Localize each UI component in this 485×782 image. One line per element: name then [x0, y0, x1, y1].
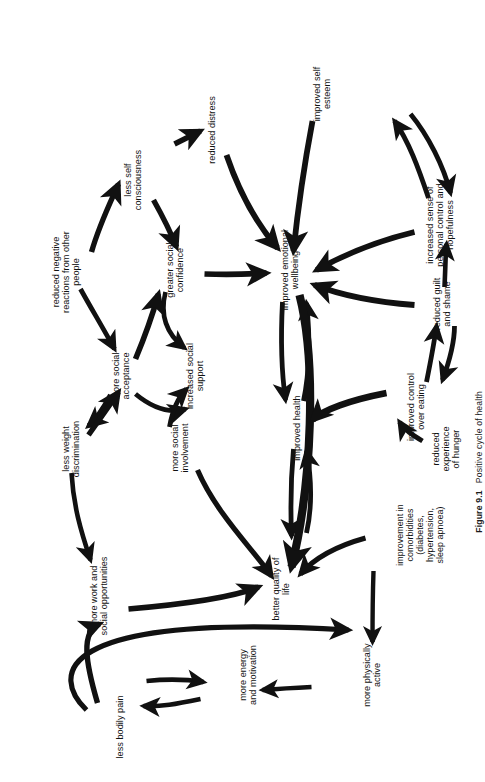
edge-active-to-energy: [262, 687, 311, 690]
edge-eating-to-health: [312, 393, 386, 420]
edge-pain-to-energy: [146, 680, 203, 682]
node-more-social-acceptance[interactable]: more social acceptance: [111, 352, 131, 399]
edge-health-to-qol: [290, 449, 293, 536]
edge-distress-to-wellbeing: [226, 155, 277, 248]
node-more-work-and-social-opportunities[interactable]: more work and social opportunities: [89, 557, 109, 636]
node-improvement-in-comorbidities[interactable]: improvement in comorbidities (diabetes, …: [395, 504, 445, 565]
node-more-energy-and-motivation[interactable]: more energy and motivation: [238, 645, 258, 705]
figure-caption-text: Positive cycle of health: [474, 391, 484, 483]
node-less-bodily-pain[interactable]: less bodily pain: [115, 696, 125, 759]
node-reduced-distress[interactable]: reduced distress: [207, 96, 217, 164]
node-less-weight-discrimination[interactable]: less weight discrimination: [61, 421, 81, 477]
edge-esteem-to-control: [410, 114, 450, 193]
edge-reactions-to-selfcons: [91, 184, 118, 252]
edge-acceptance-to-confidence: [135, 294, 158, 359]
edge-reactions-to-acceptance: [80, 289, 114, 349]
edge-guilt-to-eating: [442, 326, 454, 380]
node-improved-health[interactable]: improved health: [292, 395, 302, 460]
node-reduced-negative-reactions[interactable]: reduced negative reactions from other pe…: [51, 231, 82, 313]
edge-work-to-qol: [128, 587, 258, 609]
node-improved-self-esteem[interactable]: improved self esteem: [312, 67, 332, 122]
edge-comorb-to-active: [372, 571, 373, 642]
node-reduced-experience-of-hunger[interactable]: reduced experience of hunger: [431, 427, 462, 472]
figure-caption: Figure 9.1Positive cycle of health: [474, 391, 484, 533]
edge-involvement-to-qol: [197, 470, 271, 576]
edge-pain-to-active: [70, 627, 348, 710]
node-improved-emotional-wellbeing[interactable]: improved emotional wellbeing: [280, 230, 300, 310]
edge-eating-to-guilt: [426, 326, 436, 382]
node-increased-sense-personal-control[interactable]: increased sense of personal control and …: [425, 183, 456, 266]
edge-discrimination-to-work: [71, 473, 90, 560]
edge-energy-to-pain: [143, 699, 200, 706]
node-better-quality-of-life[interactable]: better quality of life: [271, 557, 291, 620]
edge-selfcons-to-distress: [174, 131, 200, 144]
node-greater-social-confidence[interactable]: greater social confidence: [165, 242, 185, 297]
diagram-canvas: more physically active more energy and m…: [0, 0, 485, 782]
edge-pain-to-work: [86, 624, 99, 703]
edge-confidence-to-support: [163, 292, 184, 348]
node-less-self-consciousness[interactable]: less self consciousness: [123, 150, 143, 210]
edge-selfcons-to-confidence: [153, 200, 176, 247]
node-more-social-involvement[interactable]: more social involvement: [170, 423, 190, 472]
node-reduced-guilt-and-shame[interactable]: reduced guilt and shame: [432, 278, 452, 331]
figure-caption-number: Figure 9.1: [474, 490, 484, 533]
node-improved-control-over-eating[interactable]: improved control over eating: [406, 373, 426, 441]
node-increased-social-support[interactable]: increased social support: [185, 343, 205, 409]
edge-confidence-to-wellbeing: [204, 273, 266, 274]
edge-guilt-to-wellbeing: [314, 285, 414, 305]
edge-wellbeing-to-health: [281, 302, 285, 400]
edge-control-to-wellbeing: [316, 232, 414, 270]
figure-container: more physically active more energy and m…: [0, 0, 485, 782]
node-more-physically-active[interactable]: more physically active: [362, 643, 382, 706]
edge-comorb-to-qol: [300, 538, 365, 574]
